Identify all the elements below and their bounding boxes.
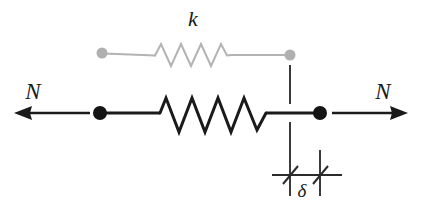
elongation-label: δ (298, 180, 308, 201)
undeformed-coil (155, 44, 232, 66)
spring-diagram-figure: k δ (0, 0, 422, 210)
force-arrow-right-head (390, 106, 408, 120)
deformed-spring-group (93, 98, 327, 132)
deformed-left-node (93, 106, 107, 120)
force-arrow-left-head (14, 106, 32, 120)
undeformed-right-node (285, 50, 296, 61)
diagram-canvas: k δ (0, 0, 422, 210)
force-label-left: N (24, 79, 42, 104)
deformed-coil (160, 98, 266, 132)
deformed-right-node (313, 106, 327, 120)
undeformed-left-node (97, 48, 108, 59)
dimension-group (272, 65, 342, 196)
undeformed-left-lead (104, 54, 155, 56)
spring-constant-label: k (188, 6, 199, 31)
undeformed-spring-group (97, 44, 296, 66)
force-label-right: N (374, 79, 392, 104)
